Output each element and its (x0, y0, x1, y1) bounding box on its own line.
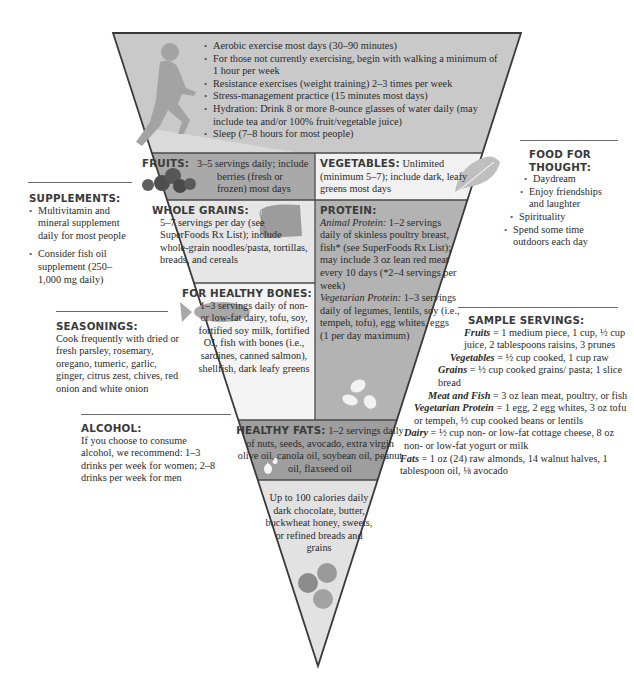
alcohol-text: If you choose to consume alcohol, we rec… (81, 435, 221, 485)
vegetables-section: VEGETABLES: Unlimited (minimum 5–7); inc… (320, 157, 470, 196)
supplements-item: Consider fish oil supplement (250–1,000 … (29, 248, 134, 286)
serving-row: Fruits = 1 medium piece, 1 cup, ½ cup ju… (400, 327, 628, 352)
serving-row: Grains = ½ cup cooked grains/ pasta; 1 s… (400, 364, 628, 389)
whole-grains-heading: WHOLE GRAINS: (152, 204, 312, 217)
activity-item: Stress-management practice (15 minutes m… (204, 90, 504, 103)
supplements-list: Multivitamin and mineral supplement dail… (29, 205, 134, 287)
healthy-fats-heading: HEALTHY FATS: (236, 424, 325, 436)
divider (458, 307, 618, 308)
alcohol-section: ALCOHOL: If you choose to consume alcoho… (81, 422, 221, 485)
supplements-item: Multivitamin and mineral supplement dail… (29, 205, 134, 243)
divider (28, 182, 132, 183)
food-for-thought-item: Spirituality (510, 211, 614, 224)
sample-servings-heading: SAMPLE SERVINGS: (400, 314, 628, 327)
supplements-heading: SUPPLEMENTS: (29, 192, 134, 205)
healthy-bones-heading: FOR HEALTHY BONES: (182, 287, 312, 300)
supplements-section: SUPPLEMENTS: Multivitamin and mineral su… (29, 192, 134, 286)
serving-row: Vegetarian Protein = 1 egg, 2 egg whites… (400, 402, 628, 427)
food-for-thought-item: Daydream (524, 173, 614, 186)
healthy-bones-section: FOR HEALTHY BONES: 1–3 servings daily of… (182, 287, 312, 375)
activity-list: Aerobic exercise most days (30–90 minute… (204, 40, 504, 141)
protein-heading: PROTEIN: (320, 204, 460, 217)
fruits-heading: FRUITS: (142, 157, 189, 169)
seasonings-text: Cook frequently with dried or fresh pars… (56, 333, 184, 396)
seasonings-heading: SEASONINGS: (56, 320, 184, 333)
sample-servings-section: SAMPLE SERVINGS: Fruits = 1 medium piece… (400, 314, 628, 478)
vegetables-heading: VEGETABLES: (320, 157, 400, 169)
healthy-fats-section: HEALTHY FATS: 1–2 servings daily of nuts… (236, 424, 404, 475)
animal-protein-label: Animal Protein: (320, 217, 386, 228)
seasonings-section: SEASONINGS: Cook frequently with dried o… (56, 320, 184, 396)
vegetarian-protein-label: Vegetarian Protein: (320, 292, 401, 303)
alcohol-heading: ALCOHOL: (81, 422, 221, 435)
activity-section: Aerobic exercise most days (30–90 minute… (204, 40, 504, 141)
food-for-thought-list: Daydream Enjoy friendships and laughter … (504, 173, 614, 249)
activity-item: For those not currently exercising, begi… (204, 53, 504, 78)
treats-section: Up to 100 calories daily dark chocolate,… (262, 492, 376, 555)
food-for-thought-section: FOOD FOR THOUGHT: Daydream Enjoy friends… (500, 148, 630, 249)
serving-row: Fats = 1 oz (24) raw almonds, 14 walnut … (400, 453, 628, 478)
treats-text: Up to 100 calories daily dark chocolate,… (266, 492, 373, 553)
divider (520, 140, 618, 141)
serving-row: Meat and Fish = 3 oz lean meat, poultry,… (400, 390, 628, 403)
activity-item: Hydration: Drink 8 or more 8-ounce glass… (204, 103, 504, 128)
whole-grains-text: 5–7 servings per day (see SuperFoods Rx … (152, 217, 312, 267)
food-for-thought-item: Spend some time outdoors each day (504, 224, 614, 249)
activity-item: Resistance exercises (weight training) 2… (204, 78, 504, 91)
divider (56, 311, 168, 312)
serving-row: Dairy = ½ cup non- or low-fat cottage ch… (400, 427, 628, 452)
whole-grains-section: WHOLE GRAINS: 5–7 servings per day (see … (152, 204, 312, 267)
serving-row: Vegetables = ½ cup cooked, 1 cup raw (400, 352, 628, 365)
divider (81, 414, 231, 415)
healthy-bones-text: 1–3 servings daily of non- or low-fat da… (182, 300, 312, 376)
animal-protein: Animal Protein: 1–2 servings daily of sk… (320, 217, 460, 293)
food-for-thought-item: Enjoy friendships and laughter (520, 186, 614, 211)
activity-item: Sleep (7–8 hours for most people) (204, 128, 504, 141)
activity-item: Aerobic exercise most days (30–90 minute… (204, 40, 504, 53)
fruits-section: FRUITS: 3–5 servings daily; include berr… (142, 157, 312, 196)
food-for-thought-heading: FOOD FOR THOUGHT: (500, 148, 610, 173)
